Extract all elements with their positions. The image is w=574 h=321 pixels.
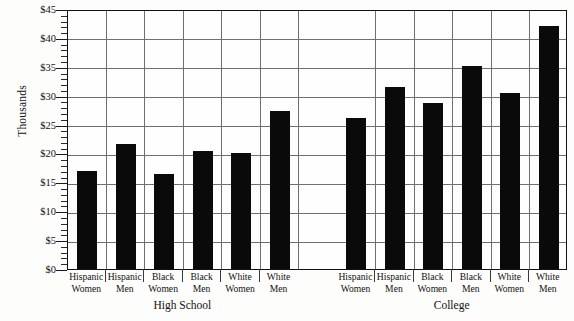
bar bbox=[270, 111, 290, 269]
y-axis-tick-major bbox=[56, 10, 67, 11]
gridline-vertical bbox=[375, 11, 376, 269]
bar bbox=[462, 66, 482, 269]
y-axis-tick-label: $45 bbox=[40, 5, 56, 15]
y-axis-tick-major bbox=[56, 241, 67, 242]
y-axis-tick-label: $25 bbox=[40, 121, 56, 131]
bar bbox=[423, 103, 443, 269]
gridline-vertical bbox=[491, 11, 492, 269]
y-axis-tick-label: $20 bbox=[40, 149, 56, 159]
x-axis-category-label: WhiteMen bbox=[246, 271, 311, 294]
gridline-vertical bbox=[144, 11, 145, 269]
bar bbox=[500, 93, 520, 269]
bar bbox=[154, 174, 174, 269]
y-axis-tick-major bbox=[56, 183, 67, 184]
y-axis-tick-major bbox=[56, 126, 67, 127]
gridline-vertical bbox=[452, 11, 453, 269]
x-axis-group-label: High School bbox=[102, 299, 262, 311]
gridline-vertical bbox=[298, 11, 299, 269]
y-axis-tick-major bbox=[56, 97, 67, 98]
x-axis-label-line2: Men bbox=[246, 283, 311, 295]
y-axis-tick-major bbox=[56, 39, 67, 40]
y-axis-tick-labels: $0$5$10$15$20$25$30$35$40$45 bbox=[22, 0, 56, 321]
plot-area bbox=[67, 10, 567, 270]
bar bbox=[231, 153, 251, 269]
y-axis-tick-major bbox=[56, 212, 67, 213]
y-axis-tick-label: $10 bbox=[40, 207, 56, 217]
x-axis-label-line2: Men bbox=[515, 283, 574, 295]
bar bbox=[193, 151, 213, 269]
x-axis-label-line1: White bbox=[515, 271, 574, 283]
y-axis-tick-label: $40 bbox=[40, 34, 56, 44]
bar bbox=[346, 118, 366, 269]
x-axis-group-labels: High SchoolCollege bbox=[67, 299, 567, 319]
bar bbox=[116, 144, 136, 269]
gridline-vertical bbox=[106, 11, 107, 269]
gridline-vertical bbox=[221, 11, 222, 269]
gridline-vertical bbox=[183, 11, 184, 269]
y-axis-tick-label: $35 bbox=[40, 63, 56, 73]
bar bbox=[539, 26, 559, 269]
y-axis-tick-label: $5 bbox=[46, 236, 57, 246]
y-axis-tick-major bbox=[56, 68, 67, 69]
y-axis-tick-label: $30 bbox=[40, 92, 56, 102]
y-axis-tick-major bbox=[56, 154, 67, 155]
y-axis-tick-label: $15 bbox=[40, 178, 56, 188]
x-axis-category-label: WhiteMen bbox=[515, 271, 574, 294]
gridline-vertical bbox=[414, 11, 415, 269]
x-axis-group-label: College bbox=[372, 299, 532, 311]
bar bbox=[385, 87, 405, 269]
gridline-vertical bbox=[529, 11, 530, 269]
gridline-vertical bbox=[260, 11, 261, 269]
bar bbox=[77, 171, 97, 269]
bar-chart: Thousands $0$5$10$15$20$25$30$35$40$45 H… bbox=[0, 0, 574, 321]
x-axis-label-line1: White bbox=[246, 271, 311, 283]
